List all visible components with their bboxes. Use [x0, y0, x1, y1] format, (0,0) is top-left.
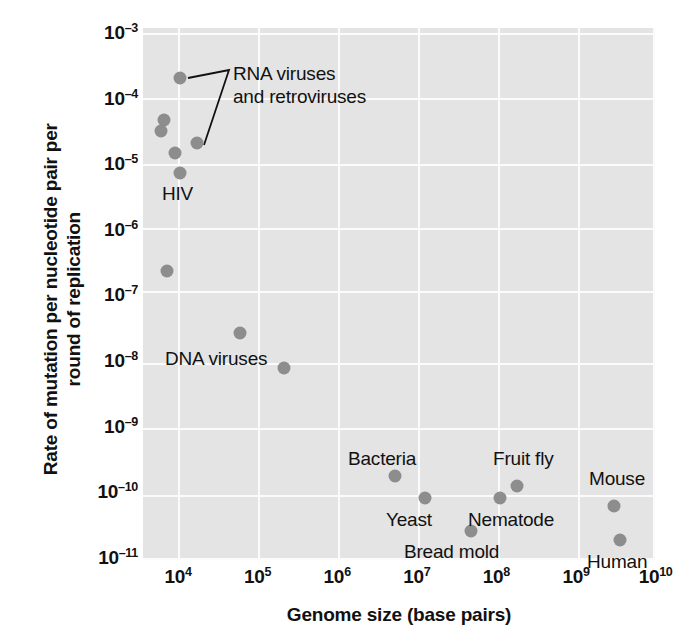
annotation-hiv: HIV [162, 183, 193, 206]
gridline-horizontal [143, 558, 655, 560]
y-axis-title: Rate of mutation per nucleotide pair per… [39, 9, 85, 589]
plot-area: RNA viruses and retrovirusesHIVDNA virus… [143, 28, 655, 560]
x-axis-title: Genome size (base pairs) [143, 604, 655, 626]
gridline-horizontal [143, 98, 655, 100]
y-tick-label: 10–4 [104, 88, 138, 110]
mutation-rate-scatter-figure: RNA viruses and retrovirusesHIVDNA virus… [0, 0, 699, 642]
annotation-nematode: Nematode [468, 509, 554, 532]
x-tick-label: 1010 [639, 566, 673, 588]
data-point [419, 492, 432, 505]
data-point [155, 125, 168, 138]
y-axis-title-line: Rate of mutation per nucleotide pair per [39, 9, 62, 589]
x-tick-label: 107 [403, 566, 430, 588]
data-point [614, 534, 627, 547]
gridline-vertical [418, 28, 420, 560]
y-tick-label: 10–5 [104, 153, 138, 175]
y-tick-label: 10–10 [97, 481, 138, 503]
x-tick-label: 109 [562, 566, 589, 588]
gridline-horizontal [143, 164, 655, 166]
data-point [494, 492, 507, 505]
y-tick-label: 10–9 [104, 416, 138, 438]
gridline-vertical [178, 28, 180, 560]
y-tick-label: 10–3 [104, 22, 138, 44]
gridline-horizontal [143, 33, 655, 35]
gridline-horizontal [143, 291, 655, 293]
gridline-vertical [653, 28, 655, 560]
annotation-dna-viruses: DNA viruses [165, 348, 267, 371]
data-point [161, 265, 174, 278]
annotation-bacteria: Bacteria [348, 448, 416, 471]
gridline-vertical [578, 28, 580, 560]
gridline-horizontal [143, 228, 655, 230]
annotation-rna-viruses: RNA viruses and retroviruses [233, 63, 366, 109]
gridline-vertical [498, 28, 500, 560]
x-tick-label: 106 [324, 566, 351, 588]
data-point [608, 500, 621, 513]
data-point [389, 470, 402, 483]
data-point [278, 362, 291, 375]
data-point [174, 167, 187, 180]
gridline-horizontal [143, 495, 655, 497]
data-point [234, 327, 247, 340]
annotation-mouse: Mouse [589, 468, 645, 491]
annotation-yeast: Yeast [386, 509, 432, 532]
x-axis-tick-labels: 1041051061071081091010 [0, 566, 699, 596]
x-tick-label: 108 [483, 566, 510, 588]
y-tick-label: 10–8 [104, 350, 138, 372]
data-point [511, 480, 524, 493]
y-tick-label: 10–7 [104, 284, 138, 306]
data-point [191, 137, 204, 150]
annotation-fruit-fly: Fruit fly [493, 448, 553, 471]
data-point [174, 72, 187, 85]
gridline-horizontal [143, 428, 655, 430]
x-tick-label: 105 [244, 566, 271, 588]
y-axis-title-line: round of replication [62, 9, 85, 589]
annotation-bread-mold: Bread mold [404, 541, 499, 564]
x-tick-label: 104 [164, 566, 191, 588]
y-tick-label: 10–6 [104, 219, 138, 241]
data-point [169, 147, 182, 160]
